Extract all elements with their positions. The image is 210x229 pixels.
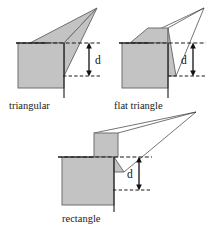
rectangle-step-square-shape	[94, 133, 118, 157]
shape-diagram-figure: d triangular	[0, 0, 210, 229]
flat-triangle-construction-line-inner	[168, 8, 204, 28]
panel-rectangle: d rectangle	[58, 112, 196, 224]
triangular-dimension-label: d	[95, 54, 101, 66]
flat-triangle-top-shape	[130, 28, 168, 43]
flat-triangle-right-flank-shape	[168, 28, 176, 76]
panel-triangular: d triangular	[9, 8, 101, 111]
rectangle-construction-line-inner	[118, 112, 196, 133]
rectangle-block-shape	[62, 157, 114, 205]
rectangle-dimension-label: d	[127, 168, 133, 180]
flat-triangle-caption: flat triangle	[114, 100, 163, 111]
triangular-block-shape	[18, 43, 64, 88]
rectangle-construction-line-top	[94, 112, 196, 133]
rectangle-construction-line-right	[124, 112, 196, 172]
figure-container: d triangular	[0, 0, 210, 229]
triangular-caption: triangular	[9, 100, 50, 111]
rectangle-caption: rectangle	[62, 213, 101, 224]
rectangle-step-flank-shape	[114, 157, 124, 172]
panel-flat-triangle: d flat triangle	[114, 8, 206, 111]
flat-triangle-dimension-label: d	[181, 54, 187, 66]
flat-triangle-block-shape	[122, 43, 168, 88]
